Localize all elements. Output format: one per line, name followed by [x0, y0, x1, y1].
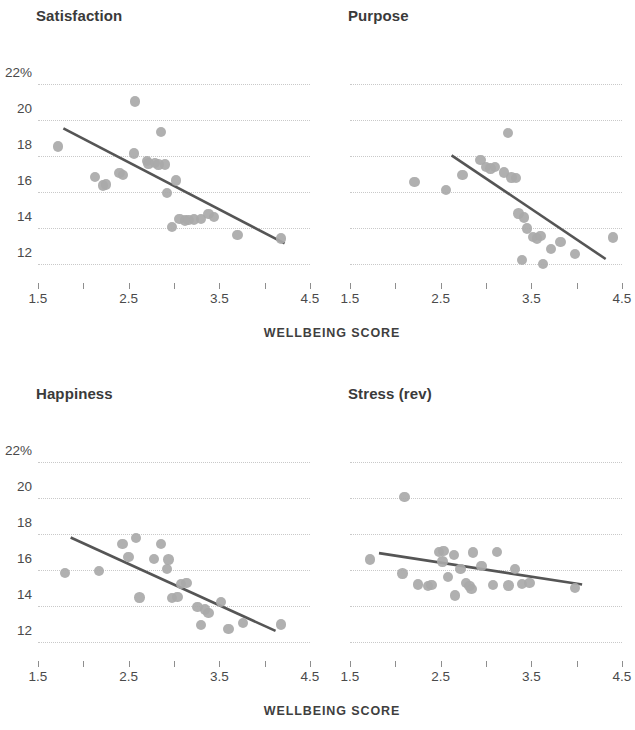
data-point [238, 618, 248, 628]
data-point [123, 552, 133, 562]
data-point [156, 127, 166, 137]
data-point [134, 592, 144, 602]
gridline [38, 570, 310, 571]
data-point [503, 128, 513, 138]
gridline [350, 642, 622, 643]
y-tick-label: 12 [0, 623, 32, 638]
data-point [117, 539, 127, 549]
y-tick-label: 16 [0, 173, 32, 188]
data-point [437, 556, 447, 566]
gridline [38, 606, 310, 607]
y-tick-label: 22% [0, 65, 32, 80]
panel-title-purpose: Purpose [348, 7, 409, 24]
y-tick-label: 22% [0, 443, 32, 458]
data-point [466, 584, 476, 594]
x-tick-mark [265, 661, 266, 667]
data-point [172, 592, 182, 602]
x-tick-mark [486, 283, 487, 289]
data-point [538, 259, 548, 269]
x-tick-mark [441, 283, 442, 289]
gridline [38, 534, 310, 535]
data-point [441, 185, 451, 195]
data-point [167, 222, 177, 232]
y-tick-label: 18 [0, 137, 32, 152]
y-tick-label: 20 [0, 101, 32, 116]
data-point [101, 179, 111, 189]
x-tick-mark [38, 661, 39, 667]
data-point [426, 580, 436, 590]
trend-line [350, 70, 622, 282]
y-tick-label: 12 [0, 245, 32, 260]
x-tick-label: 1.5 [13, 291, 63, 306]
data-point [171, 175, 181, 185]
y-tick-label: 16 [0, 551, 32, 566]
data-point [570, 249, 580, 259]
data-point [130, 96, 140, 106]
data-point [492, 547, 502, 557]
plot-area-stress: 1.52.53.54.5 [350, 448, 622, 660]
data-point [570, 583, 580, 593]
panel-stress: Stress (rev) 1.52.53.54.5 [318, 378, 635, 728]
data-point [488, 580, 498, 590]
panel-title-happiness: Happiness [36, 385, 113, 402]
data-point [413, 579, 423, 589]
y-tick-label: 20 [0, 479, 32, 494]
data-point [118, 170, 128, 180]
x-tick-mark [577, 283, 578, 289]
data-point [94, 566, 104, 576]
gridline [350, 120, 622, 121]
data-point [129, 148, 139, 158]
data-point [181, 578, 191, 588]
data-point [535, 231, 545, 241]
gridline [350, 156, 622, 157]
x-tick-mark [441, 661, 442, 667]
gridline [350, 498, 622, 499]
data-point [503, 580, 513, 590]
trend-line [350, 448, 622, 660]
data-point [149, 554, 159, 564]
y-tick-label: 18 [0, 515, 32, 530]
data-point [162, 188, 172, 198]
x-tick-mark [622, 283, 623, 289]
data-point [519, 212, 529, 222]
data-point [160, 159, 170, 169]
x-tick-label: 3.5 [506, 669, 556, 684]
gridline [350, 570, 622, 571]
x-tick-mark [577, 661, 578, 667]
x-tick-mark [219, 661, 220, 667]
x-tick-mark [174, 661, 175, 667]
data-point [608, 232, 618, 242]
data-point [209, 212, 219, 222]
data-point [443, 572, 453, 582]
data-point [156, 539, 166, 549]
data-point [555, 237, 565, 247]
gridline [38, 642, 310, 643]
x-axis-caption-top: WELLBEING SCORE [232, 326, 432, 340]
data-point [510, 564, 520, 574]
x-tick-label: 2.5 [104, 291, 154, 306]
data-point [438, 546, 448, 556]
data-point [60, 568, 70, 578]
panel-title-satisfaction: Satisfaction [36, 7, 122, 24]
x-tick-mark [531, 283, 532, 289]
x-tick-label: 3.5 [506, 291, 556, 306]
data-point [450, 590, 460, 600]
panel-happiness: Happiness 121416182022%1.52.53.54.5 [0, 378, 318, 728]
x-tick-label: 4.5 [597, 291, 635, 306]
x-tick-label: 1.5 [13, 669, 63, 684]
y-tick-label: 14 [0, 209, 32, 224]
gridline [38, 462, 310, 463]
plot-area-purpose: 1.52.53.54.5 [350, 70, 622, 282]
data-point [524, 578, 534, 588]
panel-satisfaction: Satisfaction 121416182022%1.52.53.54.5 [0, 0, 318, 350]
trend-line [38, 448, 310, 660]
gridline [350, 192, 622, 193]
x-tick-mark [531, 661, 532, 667]
x-axis-caption-bottom: WELLBEING SCORE [232, 704, 432, 718]
gridline [350, 462, 622, 463]
data-point [468, 547, 478, 557]
x-tick-mark [310, 283, 311, 289]
x-tick-label: 4.5 [597, 669, 635, 684]
x-tick-mark [350, 283, 351, 289]
data-point [196, 620, 206, 630]
